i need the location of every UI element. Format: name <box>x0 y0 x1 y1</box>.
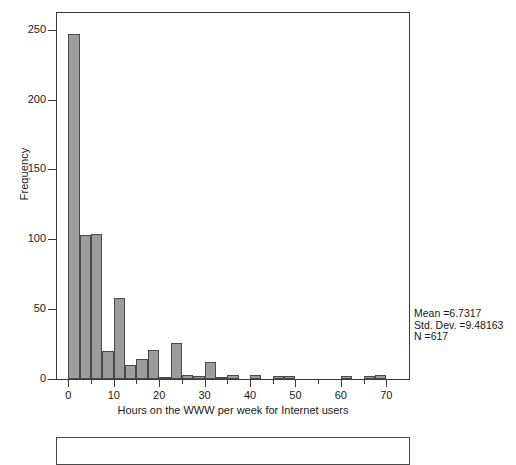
histogram-bar <box>148 350 159 379</box>
histogram-bar <box>159 377 170 379</box>
x-tick-label: 30 <box>185 389 225 401</box>
histogram-bar <box>284 376 295 379</box>
x-tick-mark <box>114 380 115 387</box>
histogram-bar <box>375 375 386 379</box>
plot-area <box>57 13 409 379</box>
x-tick-mark <box>205 380 206 387</box>
histogram-bar <box>205 362 216 379</box>
stats-n: N =617 <box>414 331 503 343</box>
y-tick-label: 150 <box>8 163 46 174</box>
histogram-bar <box>125 365 136 379</box>
x-tick-label: 40 <box>230 389 270 401</box>
x-tick-label: 20 <box>139 389 179 401</box>
x-minor-tick-mark <box>318 380 319 384</box>
x-minor-tick-mark <box>91 380 92 384</box>
x-minor-tick-mark <box>273 380 274 384</box>
histogram-bar <box>273 376 284 379</box>
y-tick-mark <box>48 100 56 101</box>
stats-mean: Mean =6.7317 <box>414 308 503 320</box>
histogram-bar <box>136 359 147 379</box>
y-tick-mark <box>48 30 56 31</box>
x-minor-tick-mark <box>364 380 365 384</box>
stats-annotation: Mean =6.7317 Std. Dev. =9.48163 N =617 <box>414 308 503 343</box>
x-tick-mark <box>159 380 160 387</box>
x-tick-mark <box>386 380 387 387</box>
y-tick-label: 50 <box>8 303 46 314</box>
x-tick-mark <box>68 380 69 387</box>
y-tick-label: 250 <box>8 24 46 35</box>
histogram-bars <box>57 13 409 379</box>
histogram-bar <box>182 375 193 379</box>
x-tick-mark <box>250 380 251 387</box>
x-tick-label: 10 <box>94 389 134 401</box>
histogram-bar <box>114 298 125 379</box>
x-tick-mark <box>295 380 296 387</box>
y-tick-mark <box>48 239 56 240</box>
histogram-bar <box>227 375 238 379</box>
bottom-caption-box <box>56 437 410 465</box>
x-tick-label: 50 <box>275 389 315 401</box>
histogram-bar <box>250 375 261 379</box>
y-tick-label: 100 <box>8 233 46 244</box>
x-tick-label: 0 <box>48 389 88 401</box>
x-axis-title: Hours on the WWW per week for Internet u… <box>56 404 410 416</box>
histogram-bar <box>216 377 227 379</box>
x-tick-label: 60 <box>321 389 361 401</box>
x-tick-mark <box>341 380 342 387</box>
histogram-bar <box>68 34 79 379</box>
y-tick-mark <box>48 169 56 170</box>
histogram-bar <box>341 376 352 379</box>
x-minor-tick-mark <box>136 380 137 384</box>
histogram-bar <box>102 351 113 379</box>
y-tick-label: 200 <box>8 94 46 105</box>
y-tick-mark <box>48 379 56 380</box>
histogram-bar <box>91 234 102 379</box>
y-tick-mark <box>48 309 56 310</box>
histogram-bar <box>364 376 375 379</box>
histogram-bar <box>80 235 91 379</box>
y-tick-label: 0 <box>8 373 46 384</box>
histogram-bar <box>193 376 204 379</box>
x-tick-label: 70 <box>366 389 406 401</box>
histogram-bar <box>171 343 182 379</box>
x-minor-tick-mark <box>182 380 183 384</box>
x-minor-tick-mark <box>227 380 228 384</box>
